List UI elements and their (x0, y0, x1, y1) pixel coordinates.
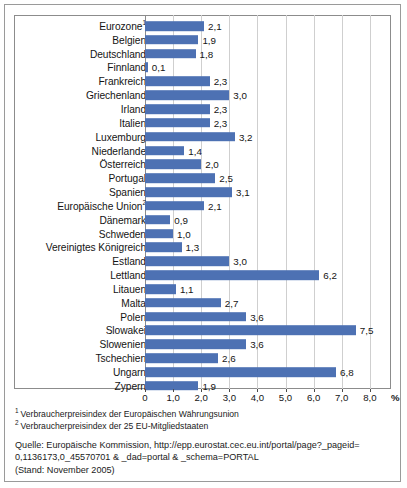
x-tick-label: 8,0 (363, 392, 376, 403)
bar (145, 215, 170, 225)
figure-container: Eurozone12,1Belgien1,9Deutschland1,8Finn… (4, 4, 401, 482)
bar-row: Slowenien3,6 (5, 337, 400, 351)
bar-row: Tschechien2,6 (5, 351, 400, 365)
bar-category-label: Slowakei (106, 325, 146, 336)
bar-value-label: 1,8 (200, 48, 214, 59)
bar-category-label: Irland (121, 103, 146, 114)
bar (145, 298, 221, 308)
bar-value-label: 2,3 (214, 76, 228, 87)
bar-category-label: Tschechien (96, 353, 146, 364)
bar-value-label: 1,0 (177, 228, 191, 239)
bar-value-label: 2,3 (214, 117, 228, 128)
figure-footer: 1Verbraucherpreisindex der Europäischen … (5, 409, 400, 476)
bar-row: Belgien1,9 (5, 33, 400, 47)
bar-category-label: Finnland (107, 62, 146, 73)
bar-value-label: 0,1 (152, 62, 166, 73)
bar-value-label: 2,7 (225, 297, 239, 308)
x-tick-label: 1,0 (166, 392, 179, 403)
bar (145, 146, 184, 156)
bar-row: Lettland6,2 (5, 268, 400, 282)
bar-category-label: Polen (120, 311, 146, 322)
bar-value-label: 6,8 (340, 367, 354, 378)
bar-value-label: 2,0 (205, 159, 219, 170)
bar-row: Litauen1,1 (5, 282, 400, 296)
x-tick-label: 5,0 (279, 392, 292, 403)
bar-value-label: 3,0 (233, 256, 247, 267)
bar-value-label: 3,2 (239, 131, 253, 142)
bar (145, 49, 196, 59)
bar (145, 104, 210, 114)
bar-row: Frankreich2,3 (5, 74, 400, 88)
bar-row: Europäische Union22,1 (5, 199, 400, 213)
source-line-3: (Stand: November 2005) (15, 464, 390, 476)
bar-category-label: Malta (121, 297, 146, 308)
footnote-marker-1: 1 (15, 407, 19, 414)
bar-row: Vereinigtes Königreich1,3 (5, 241, 400, 255)
bar (145, 160, 201, 170)
bar-value-label: 1,9 (202, 34, 216, 45)
bar (145, 132, 235, 142)
bar-value-label: 3,1 (236, 187, 250, 198)
bar-category-label: Portugal (108, 173, 146, 184)
bar-row: Schweden1,0 (5, 227, 400, 241)
bar-category-label: Frankreich (98, 76, 146, 87)
bar-value-label: 3,6 (250, 311, 264, 322)
bar-rows: Eurozone12,1Belgien1,9Deutschland1,8Finn… (5, 19, 400, 393)
bar-category-label: Estland (112, 256, 146, 267)
bar-row: Italien2,3 (5, 116, 400, 130)
bar (145, 118, 210, 128)
bar-row: Malta2,7 (5, 296, 400, 310)
bar-value-label: 1,3 (186, 242, 200, 253)
bar-category-label: Griechenland (86, 90, 146, 101)
bar-row: Niederlande1,4 (5, 144, 400, 158)
bar (145, 187, 232, 197)
bar-value-label: 2,3 (214, 103, 228, 114)
bar-value-label: 1,1 (180, 283, 194, 294)
bar-category-label: Ungarn (113, 367, 146, 378)
bar (145, 312, 246, 322)
bar-value-label: 2,1 (208, 20, 222, 31)
bar-value-label: 3,0 (233, 90, 247, 101)
bar-category-label: Litauen (113, 283, 146, 294)
bar (145, 63, 148, 73)
bar (145, 90, 229, 100)
bar-category-label: Dänemark (99, 214, 146, 225)
bar-category-label: Deutschland (90, 48, 146, 59)
bar-category-label: Niederlande (92, 145, 146, 156)
bar-row: Portugal2,5 (5, 171, 400, 185)
bar (145, 256, 229, 266)
bar-category-label: Österreich (100, 159, 147, 170)
x-tick-label: 3,0 (223, 392, 236, 403)
bar-row: Dänemark0,9 (5, 213, 400, 227)
bar-value-label: 2,6 (222, 353, 236, 364)
bar-row: Irland2,3 (5, 102, 400, 116)
chart-plot-area: Eurozone12,1Belgien1,9Deutschland1,8Finn… (5, 5, 400, 391)
source-line-1: Quelle: Europäische Kommission, http://e… (15, 439, 390, 451)
bar (145, 326, 356, 336)
bar-category-label: Belgien (112, 34, 146, 45)
bar-category-label: Spanien (109, 187, 146, 198)
footnote-text-2: Verbraucherpreisindex der 25 EU-Mitglied… (21, 421, 209, 431)
bar (145, 35, 198, 45)
x-tick-label: 6,0 (307, 392, 320, 403)
bar (145, 229, 173, 239)
bar (145, 201, 204, 211)
bar-category-label: Lettland (110, 270, 146, 281)
bar (145, 353, 218, 363)
bar-value-label: 1,4 (188, 145, 202, 156)
bar (145, 284, 176, 294)
bar-category-label: Luxemburg (95, 131, 146, 142)
bar-value-label: 2,1 (208, 200, 222, 211)
x-tick-label: 0 (142, 392, 147, 403)
bar (145, 21, 204, 31)
bar-row: Ungarn6,8 (5, 365, 400, 379)
source-line-2: 0,1136173,0_45570701 & _dad=portal & _sc… (15, 451, 390, 463)
bar-row: Slowakei7,5 (5, 324, 400, 338)
bar-category-label: Italien (119, 117, 146, 128)
bar-category-label: Vereinigtes Königreich (46, 242, 146, 253)
bar-row: Griechenland3,0 (5, 88, 400, 102)
bar-value-label: 7,5 (360, 325, 374, 336)
x-axis-ticks: % 01,02,03,04,05,06,07,08,0 (5, 389, 400, 407)
footnote-2: 2Verbraucherpreisindex der 25 EU-Mitglie… (15, 421, 390, 433)
x-axis-unit-label: % (391, 392, 400, 403)
